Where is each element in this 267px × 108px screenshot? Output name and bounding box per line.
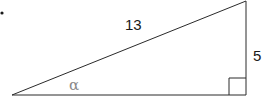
hypotenuse-label: 13 bbox=[125, 16, 142, 33]
right-triangle-diagram: 13 5 α bbox=[0, 0, 267, 108]
bullet-marker bbox=[0, 11, 3, 14]
angle-alpha-label: α bbox=[69, 76, 79, 94]
right-angle-marker bbox=[229, 78, 246, 95]
opposite-side-label: 5 bbox=[253, 47, 261, 64]
